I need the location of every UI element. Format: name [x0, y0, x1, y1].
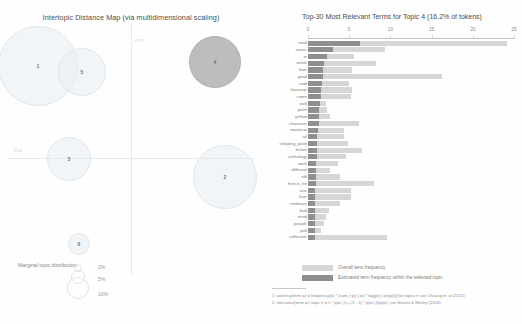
bar-term-label[interactable]: in — [247, 54, 307, 59]
bar-topic-frequency — [308, 94, 321, 99]
bar-row[interactable]: come — [262, 94, 522, 101]
bar-row[interactable]: writer — [262, 60, 522, 67]
bar-term-label[interactable]: good — [247, 74, 307, 79]
bar-topic-frequency — [308, 148, 317, 153]
bar-row[interactable]: old — [262, 174, 522, 181]
bar-row[interactable]: french_fre — [262, 180, 522, 187]
bar-term-label[interactable]: one — [247, 188, 307, 193]
marginal-legend-label-2pct: 2% — [98, 264, 105, 270]
footnote-divider — [272, 288, 306, 289]
bar-row[interactable]: one — [262, 187, 522, 194]
bar-term-label[interactable]: oil — [247, 134, 307, 139]
bar-term-label[interactable]: love — [247, 194, 307, 199]
bar-row[interactable]: people — [262, 221, 522, 228]
bar-row[interactable]: fiction — [262, 147, 522, 154]
bar-row[interactable]: in — [262, 53, 522, 60]
bar-term-label[interactable]: series — [247, 47, 307, 52]
bar-topic-frequency — [308, 41, 360, 46]
top-terms-bar-chart-panel: Top-30 Most Relevant Terms for Topic 4 (… — [262, 0, 522, 324]
bar-topic-frequency — [308, 214, 315, 219]
bar-overall-frequency — [308, 181, 374, 186]
bar-row[interactable]: collection — [262, 234, 522, 241]
topic-label-3: 3 — [68, 156, 71, 162]
bar-topic-frequency — [308, 181, 316, 186]
bar-term-label[interactable]: point — [247, 107, 307, 112]
bar-term-label[interactable]: character — [247, 121, 307, 126]
bar-term-label[interactable]: different — [247, 167, 307, 172]
bar-term-label[interactable]: collection — [247, 234, 307, 239]
bar-topic-frequency — [308, 74, 323, 79]
bar-row[interactable]: bad — [262, 207, 522, 214]
mds-y-axis — [131, 24, 132, 274]
bar-row[interactable]: said — [262, 80, 522, 87]
bar-row[interactable]: series — [262, 47, 522, 54]
bar-term-label[interactable]: poll — [247, 228, 307, 233]
bar-topic-frequency — [308, 141, 317, 146]
topic-label-6: 6 — [78, 241, 81, 247]
bar-term-label[interactable]: said — [247, 81, 307, 86]
bar-term-label[interactable]: yellow — [247, 114, 307, 119]
marginal-legend-label-5pct: 5% — [98, 276, 105, 282]
topic-label-4: 4 — [214, 59, 217, 65]
bar-row[interactable]: work — [262, 160, 522, 167]
bar-row[interactable]: motorcat — [262, 127, 522, 134]
bar-chart-title: Top-30 Most Relevant Terms for Topic 4 (… — [262, 13, 522, 20]
marginal-topic-distribution-label: Marginal topic distribution — [18, 262, 77, 268]
bar-topic-frequency — [308, 47, 333, 52]
bar-row[interactable]: good — [262, 73, 522, 80]
footnote-saliency: 1. saliency(term w) = frequency(w) * [su… — [272, 292, 522, 299]
bar-row[interactable]: poll — [262, 227, 522, 234]
bar-row[interactable]: point — [262, 107, 522, 114]
bar-row[interactable]: sleeping_point — [262, 140, 522, 147]
bar-term-label[interactable]: old — [247, 174, 307, 179]
bar-topic-frequency — [308, 194, 315, 199]
x-tick-label-0: 0 — [307, 27, 310, 32]
bar-row[interactable]: love — [262, 67, 522, 74]
mds-x-axis-label: PC1 — [135, 38, 144, 43]
bar-term-label[interactable]: come — [247, 94, 307, 99]
bar-row[interactable]: favourite — [262, 87, 522, 94]
topic-label-5: 5 — [81, 69, 84, 75]
bar-term-label[interactable]: people — [247, 221, 307, 226]
bar-term-label[interactable]: well — [247, 101, 307, 106]
bar-topic-frequency — [308, 235, 315, 240]
bar-row[interactable]: embrace — [262, 201, 522, 208]
bar-overall-frequency — [308, 235, 387, 240]
intertopic-distance-map-panel: Intertopic Distance Map (via multidimens… — [0, 0, 262, 324]
mds-y-axis-label: PC2 — [14, 148, 23, 153]
bar-row[interactable]: anthology — [262, 154, 522, 161]
bar-term-label[interactable]: motorcat — [247, 127, 307, 132]
bar-topic-frequency — [308, 101, 320, 106]
bar-term-label[interactable]: read — [247, 40, 307, 45]
bar-term-label[interactable]: bad — [247, 208, 307, 213]
bar-topic-frequency — [308, 87, 321, 92]
bar-term-label[interactable]: work — [247, 161, 307, 166]
bar-row[interactable]: mind — [262, 214, 522, 221]
x-tick-label-5: 5 — [348, 27, 351, 32]
bar-topic-frequency — [308, 168, 316, 173]
bar-topic-frequency — [308, 154, 317, 159]
bar-topic-frequency — [308, 107, 319, 112]
bar-row[interactable]: character — [262, 120, 522, 127]
bar-term-label[interactable]: favourite — [247, 87, 307, 92]
bar-term-label[interactable]: writer — [247, 60, 307, 65]
bar-row[interactable]: different — [262, 167, 522, 174]
topic-label-2: 2 — [224, 174, 227, 180]
bar-row[interactable]: read — [262, 40, 522, 47]
legend-label-overall: Overall term frequency — [338, 265, 385, 270]
bar-row[interactable]: oil — [262, 134, 522, 141]
bar-topic-frequency — [308, 134, 317, 139]
x-tick-label-10: 10 — [388, 27, 393, 32]
bar-row[interactable]: well — [262, 100, 522, 107]
bar-row[interactable]: love — [262, 194, 522, 201]
bar-term-label[interactable]: mind — [247, 214, 307, 219]
bar-term-label[interactable]: fiction — [247, 147, 307, 152]
bar-row[interactable]: yellow — [262, 114, 522, 121]
legend-swatch-overall — [302, 265, 333, 271]
bar-term-label[interactable]: embrace — [247, 201, 307, 206]
bar-topic-frequency — [308, 208, 315, 213]
bar-term-label[interactable]: french_fre — [247, 181, 307, 186]
bar-term-label[interactable]: anthology — [247, 154, 307, 159]
bar-term-label[interactable]: sleeping_point — [247, 141, 307, 146]
bar-term-label[interactable]: love — [247, 67, 307, 72]
